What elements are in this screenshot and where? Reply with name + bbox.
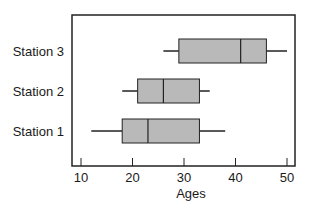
x-tick-label: 20 [125, 170, 139, 185]
y-axis-category-labels: Station 1Station 2Station 3 [13, 44, 64, 139]
box-series [91, 39, 287, 143]
x-axis-tick-labels: 1020304050 [74, 170, 294, 185]
iqr-box [122, 119, 199, 143]
x-tick-label: 30 [177, 170, 191, 185]
x-tick-label: 50 [280, 170, 294, 185]
category-label: Station 2 [13, 84, 64, 99]
category-label: Station 1 [13, 124, 64, 139]
iqr-box [138, 79, 200, 103]
x-tick-label: 40 [228, 170, 242, 185]
box-station-3 [163, 39, 287, 63]
box-station-2 [122, 79, 210, 103]
x-axis-ticks [81, 158, 287, 166]
x-axis-label: Ages [176, 186, 206, 201]
box-station-1 [91, 119, 225, 143]
x-tick-label: 10 [74, 170, 88, 185]
category-label: Station 3 [13, 44, 64, 59]
box-plot-chart: 1020304050 Ages Station 1Station 2Statio… [0, 0, 311, 208]
iqr-box [179, 39, 267, 63]
